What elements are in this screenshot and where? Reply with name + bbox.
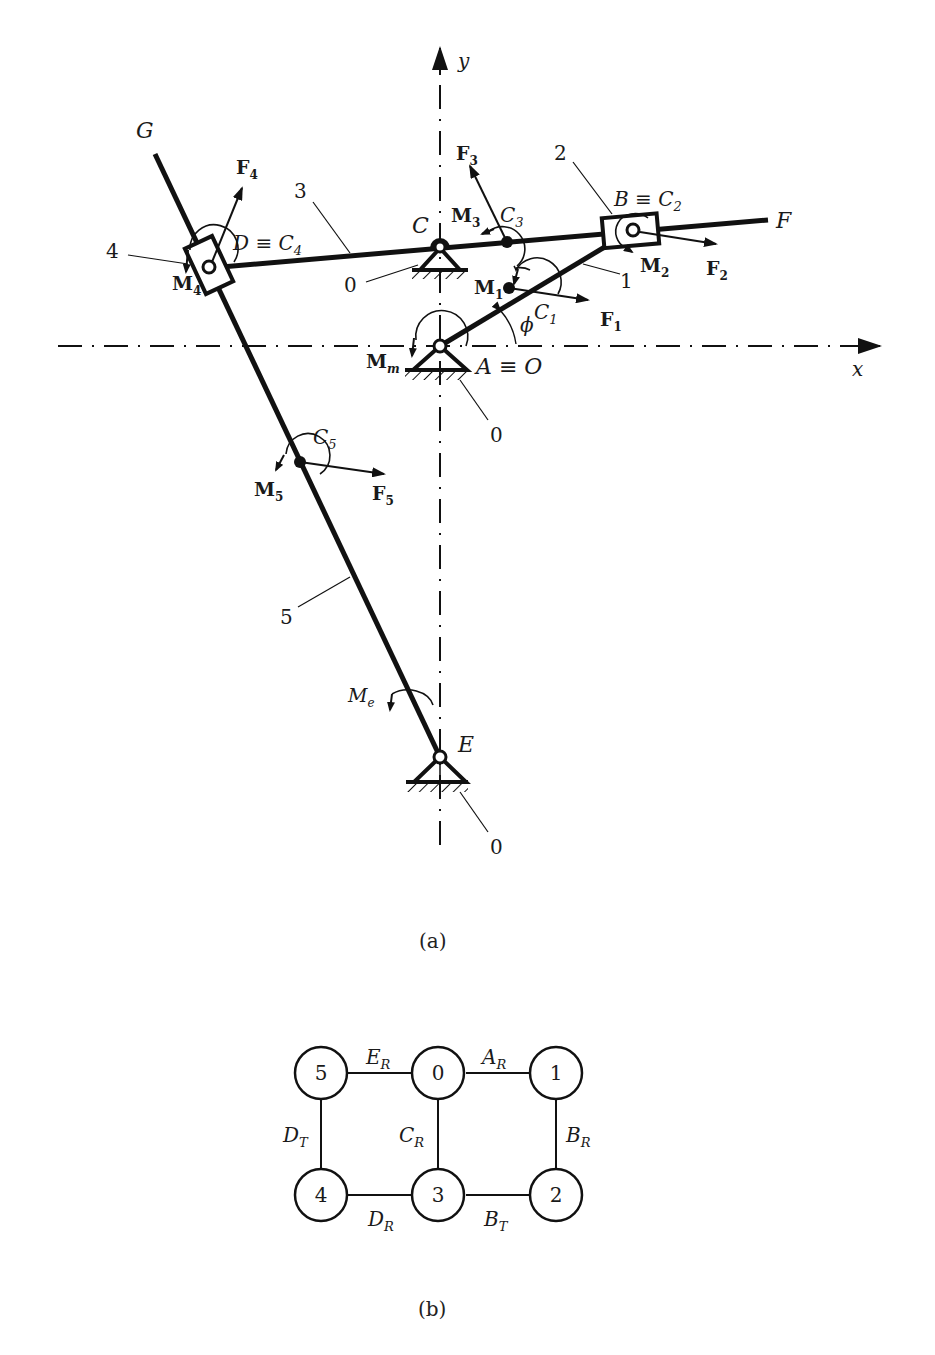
com-C1-label: C1 (534, 300, 558, 327)
angle-phi-label: ϕ (520, 313, 534, 337)
x-axis-label: x (852, 357, 863, 381)
force-F5-label: F5 (372, 482, 394, 508)
point-F-label: F (775, 208, 792, 233)
edge-label-CR: CR (399, 1123, 424, 1150)
figure-a-caption: (a) (419, 929, 447, 953)
svg-text:2: 2 (550, 1183, 563, 1207)
edge-label-BR: BR (565, 1123, 591, 1150)
link-label-4: 4 (106, 239, 119, 263)
graph-node-3: 3 (412, 1169, 464, 1221)
link-label-1: 1 (620, 269, 633, 293)
graph-node-1: 1 (530, 1047, 582, 1099)
point-D-label: D ≡ C4 (232, 231, 302, 258)
ground-label-E: 0 (490, 835, 503, 859)
force-F4-label: F4 (236, 156, 258, 182)
joint-D (203, 261, 215, 273)
graph-node-5: 5 (295, 1047, 347, 1099)
svg-text:0: 0 (432, 1061, 445, 1085)
ground-label-C: 0 (344, 273, 357, 297)
figure-b-caption: (b) (418, 1297, 446, 1321)
force-F2-label: F2 (706, 257, 728, 283)
point-B-label: B ≡ C2 (613, 187, 682, 214)
moment-M2-label: M2 (640, 254, 669, 280)
figure-b-graph: 5 0 1 4 3 2 ER AR BR BT CR DR DT (b) (282, 1045, 591, 1321)
ground-support-E (406, 751, 468, 792)
graph-node-4: 4 (295, 1169, 347, 1221)
graph-node-0: 0 (412, 1047, 464, 1099)
svg-text:4: 4 (315, 1183, 328, 1207)
edge-label-DT: DT (282, 1123, 309, 1150)
svg-text:1: 1 (550, 1061, 563, 1085)
link-label-2: 2 (554, 141, 567, 165)
moment-Mm-label: Mm (366, 350, 400, 376)
force-F3-label: F3 (456, 142, 478, 168)
point-E-label: E (457, 732, 474, 757)
moment-Me-label: Me (347, 684, 375, 710)
link-label-3: 3 (294, 179, 307, 203)
moment-M1-label: M1 (474, 276, 503, 302)
svg-text:3: 3 (432, 1183, 445, 1207)
point-A-label: A ≡ O (474, 354, 542, 379)
figure-a: x y G F C 0 A ≡ O (58, 48, 880, 953)
point-G-label: G (136, 118, 154, 143)
edge-label-AR: AR (480, 1045, 506, 1072)
force-F1-label: F1 (600, 308, 622, 334)
edge-label-BT: BT (483, 1207, 509, 1234)
svg-text:5: 5 (315, 1061, 328, 1085)
ground-label-A: 0 (490, 423, 503, 447)
moment-M5-label: M5 (254, 478, 283, 504)
link-label-5: 5 (280, 605, 293, 629)
com-C5-label: C5 (313, 425, 337, 452)
edge-label-ER: ER (365, 1045, 391, 1072)
mechanism-figure: x y G F C 0 A ≡ O (0, 0, 935, 1355)
y-axis-label: y (457, 49, 470, 73)
graph-node-2: 2 (530, 1169, 582, 1221)
joint-B (627, 224, 639, 236)
point-C-label: C (412, 213, 429, 238)
edge-label-DR: DR (367, 1207, 394, 1234)
moment-M3-label: M3 (451, 204, 480, 230)
